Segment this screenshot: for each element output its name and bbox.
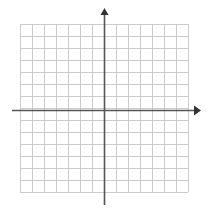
coordinate-plane-graph	[0, 0, 209, 212]
graph-canvas	[0, 0, 209, 212]
